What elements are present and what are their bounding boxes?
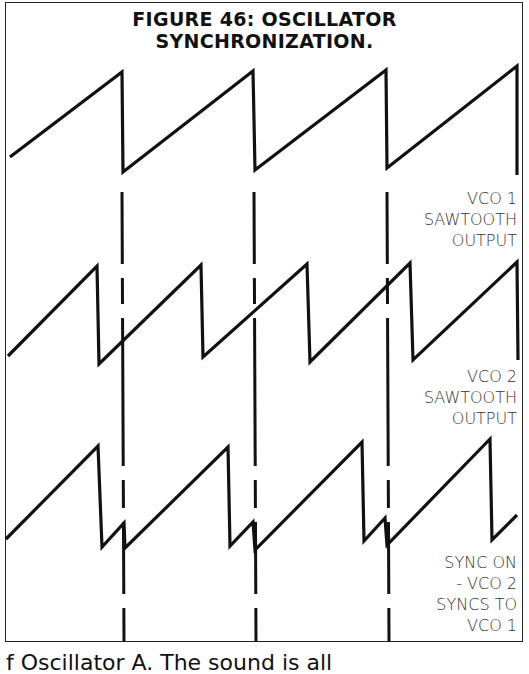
label-line: SYNCS TO [436,594,517,615]
label-line: VCO 1 [424,188,517,209]
label-line: SYNC ON [436,552,517,573]
label-line: VCO 1 [436,615,517,636]
label-vco1: VCO 1 SAWTOOTH OUTPUT [424,188,517,251]
waveform-line [10,66,517,175]
sync-marker-dashed-line [254,192,256,642]
label-sync: SYNC ON - VCO 2 SYNCS TO VCO 1 [436,552,517,636]
label-line: - VCO 2 [436,573,517,594]
label-line: SAWTOOTH [424,209,517,230]
label-line: SAWTOOTH [424,387,517,408]
waveform-line [6,439,517,550]
sync-marker-dashed-line [122,192,124,642]
label-line: VCO 2 [424,366,517,387]
cut-off-caption: f Oscillator A. The sound is all [6,650,332,674]
waveform-line [8,262,518,364]
waveform-series [6,66,518,550]
label-line: OUTPUT [424,408,517,429]
sync-marker-lines [122,192,389,642]
label-line: OUTPUT [424,230,517,251]
label-vco2: VCO 2 SAWTOOTH OUTPUT [424,366,517,429]
sync-marker-dashed-line [387,192,389,642]
